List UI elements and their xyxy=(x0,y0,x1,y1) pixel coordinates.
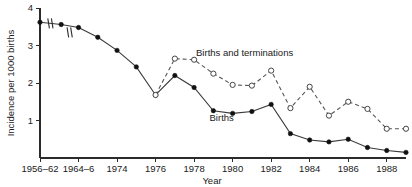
x-tick-label: 1980 xyxy=(222,163,243,174)
data-point-open xyxy=(172,56,177,61)
y-axis-group: 1234 Incidence per 1000 births xyxy=(5,2,40,158)
series-annotation-2: Births xyxy=(210,112,235,123)
x-tick-label: 1988 xyxy=(376,163,397,174)
data-point-filled xyxy=(134,65,138,69)
x-tick-label: 1978 xyxy=(184,163,205,174)
data-point-open xyxy=(307,84,312,89)
data-point-open xyxy=(211,71,216,76)
y-axis-title: Incidence per 1000 births xyxy=(5,29,16,136)
series-layer xyxy=(38,20,409,155)
data-point-filled xyxy=(385,148,389,152)
x-tick-label: 1976 xyxy=(145,163,166,174)
data-point-open xyxy=(153,92,158,97)
data-point-filled xyxy=(76,25,80,29)
data-point-open xyxy=(346,99,351,104)
data-point-filled xyxy=(192,85,196,89)
data-point-filled xyxy=(59,22,63,26)
data-point-filled xyxy=(307,138,311,142)
data-point-filled xyxy=(173,73,177,77)
data-point-filled xyxy=(115,48,119,52)
data-point-filled xyxy=(96,35,100,39)
series-line-births xyxy=(40,22,406,152)
data-point-filled xyxy=(327,140,331,144)
series-annotation-1: Births and terminations xyxy=(196,47,293,58)
y-tick-label: 2 xyxy=(28,77,33,88)
x-tick-label: 1986 xyxy=(338,163,359,174)
x-tick-label: 1984 xyxy=(299,163,320,174)
data-point-filled xyxy=(404,150,408,154)
x-tick-label: 1974 xyxy=(106,163,127,174)
y-tick-label: 1 xyxy=(28,115,33,126)
data-point-open xyxy=(326,113,331,118)
data-point-open xyxy=(384,126,389,131)
x-axis-title: Year xyxy=(202,175,221,186)
data-point-open xyxy=(249,83,254,88)
x-axis-group: 1956–621964–6197419761978198019821984198… xyxy=(22,158,406,186)
chart-container: 1234 Incidence per 1000 births 1956–6219… xyxy=(0,0,412,187)
data-point-open xyxy=(365,106,370,111)
axis-break-slash xyxy=(67,27,69,37)
data-point-filled xyxy=(288,131,292,135)
data-point-open xyxy=(403,126,408,131)
data-point-open xyxy=(288,106,293,111)
data-point-open xyxy=(230,82,235,87)
data-point-open xyxy=(269,68,274,73)
data-point-filled xyxy=(250,109,254,113)
x-tick-group: 1956–621964–6197419761978198019821984198… xyxy=(22,158,398,174)
data-point-filled xyxy=(269,102,273,106)
data-point-filled xyxy=(346,137,350,141)
x-tick-label: 1964–6 xyxy=(63,163,95,174)
y-tick-label: 4 xyxy=(28,2,33,13)
x-tick-label: 1956–62 xyxy=(22,163,59,174)
x-tick-label: 1982 xyxy=(261,163,282,174)
data-point-filled xyxy=(365,145,369,149)
y-tick-label: 3 xyxy=(28,40,33,51)
incidence-line-chart: 1234 Incidence per 1000 births 1956–6219… xyxy=(0,0,412,187)
axis-break-marks xyxy=(48,18,72,37)
axis-break-slash xyxy=(71,27,73,37)
data-point-filled xyxy=(38,20,42,24)
